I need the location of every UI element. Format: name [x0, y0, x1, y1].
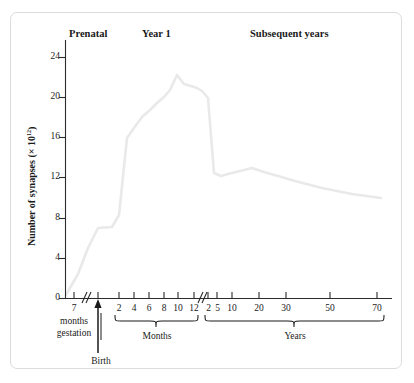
chart-canvas — [0, 0, 414, 383]
axis-break-1-icon — [82, 292, 91, 303]
axis-break-2-icon — [198, 292, 207, 303]
months-bracket — [115, 315, 198, 327]
synaptic-density-curve — [66, 75, 381, 295]
figure-root: Number of synapses (× 1012) Prenatal Yea… — [0, 0, 414, 383]
years-bracket — [205, 315, 384, 327]
